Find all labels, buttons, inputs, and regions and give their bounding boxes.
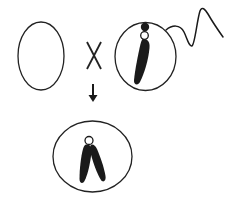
arrow-down-icon <box>89 84 98 102</box>
zygote-cell <box>53 121 132 192</box>
chromatid-right <box>90 145 106 182</box>
cross-symbol-icon <box>87 42 101 69</box>
chromosome-cap <box>141 23 149 31</box>
fertilization-diagram: Fertilization: egg cell crossed with spe… <box>0 0 235 199</box>
sperm-cell <box>115 8 223 90</box>
sperm-tail <box>166 8 223 46</box>
chromosome-centromere <box>141 32 149 40</box>
egg-cell <box>18 22 64 90</box>
zygote-centromere <box>85 137 93 145</box>
chromatid-left <box>80 144 92 182</box>
diagram-canvas <box>0 0 235 199</box>
